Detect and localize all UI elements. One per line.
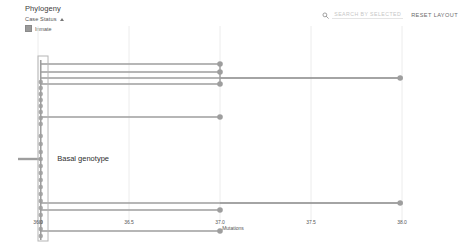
x-axis-tick-label: 37.5 [306, 219, 316, 225]
tree-node[interactable] [397, 200, 403, 206]
tree-node[interactable] [38, 206, 43, 211]
tree-node[interactable] [38, 116, 43, 121]
search-box[interactable]: SEARCH BY SELECTED [322, 11, 403, 19]
page-title: Phylogeny [25, 4, 61, 13]
tree-node[interactable] [38, 110, 43, 115]
tree-node[interactable] [38, 104, 43, 109]
tree-node[interactable] [38, 150, 43, 155]
tree-node[interactable] [397, 75, 403, 81]
x-axis-tick-label: 36.5 [124, 219, 134, 225]
tree-node[interactable] [217, 207, 223, 213]
tree-node[interactable] [38, 80, 43, 85]
tree-node[interactable] [38, 134, 43, 139]
tree-node[interactable] [217, 81, 223, 87]
legend-group-label: Case Status [25, 16, 57, 22]
search-input[interactable]: SEARCH BY SELECTED [332, 11, 403, 19]
tree-node[interactable] [38, 199, 43, 204]
tree-node[interactable] [217, 114, 223, 120]
x-axis-title: Mutations [222, 225, 244, 231]
chevron-up-icon[interactable] [60, 18, 64, 21]
tree-node[interactable] [38, 98, 43, 103]
tree-node[interactable] [38, 178, 43, 183]
tree-node[interactable] [217, 69, 223, 75]
legend-group-toggle[interactable]: Case Status [25, 16, 64, 22]
tree-node[interactable] [38, 92, 43, 97]
x-axis-tick-label: 38.0 [397, 219, 407, 225]
tree-node[interactable] [38, 86, 43, 91]
tree-node[interactable] [38, 213, 43, 218]
basal-genotype-label: Basal genotype [57, 154, 109, 163]
tree-node[interactable] [217, 61, 223, 67]
tree-node[interactable] [38, 234, 43, 239]
tree-node[interactable] [38, 185, 43, 190]
tree-node[interactable] [38, 192, 43, 197]
header-controls: SEARCH BY SELECTED RESET LAYOUT [322, 11, 458, 19]
search-icon[interactable] [322, 12, 329, 19]
tree-node[interactable] [38, 142, 43, 147]
phylogeny-panel: Phylogeny Case Status Inmate SEARCH BY S… [0, 0, 466, 252]
tree-node[interactable] [38, 171, 43, 176]
tree-node[interactable] [38, 157, 43, 162]
tree-node[interactable] [38, 122, 43, 127]
reset-layout-button[interactable]: RESET LAYOUT [411, 12, 458, 18]
x-axis-tick-label: 36.0 [33, 219, 43, 225]
phylogeny-tree-svg[interactable] [0, 26, 466, 252]
tree-node[interactable] [38, 227, 43, 232]
tree-node[interactable] [38, 164, 43, 169]
phylogeny-plot[interactable]: Basal genotype36.036.537.037.538.0Mutati… [0, 26, 466, 252]
